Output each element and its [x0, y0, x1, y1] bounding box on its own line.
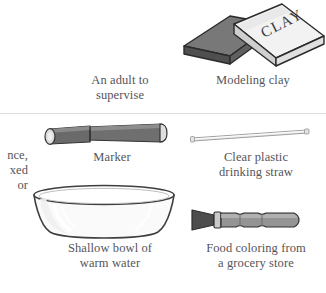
clipped-text-line-2: xed: [0, 163, 28, 178]
caption-drinking-straw: Clear plastic drinking straw: [188, 150, 324, 180]
marker-icon: [40, 121, 168, 149]
caption-marker: Marker: [62, 150, 162, 165]
materials-illustration-page: CLAY An adult to supervise Modeling clay…: [0, 0, 326, 293]
clipped-text-line-1: nce,: [0, 148, 28, 163]
caption-adult-supervise: An adult to supervise: [62, 73, 178, 103]
section-divider: [0, 113, 326, 114]
clay-box-icon: CLAY: [178, 2, 326, 70]
caption-modeling-clay: Modeling clay: [188, 73, 318, 88]
straw-icon: [190, 128, 310, 144]
bowl-icon: [28, 184, 180, 240]
food-coloring-bottle-icon: [190, 203, 302, 237]
caption-food-coloring: Food coloring from a grocery store: [186, 241, 326, 271]
caption-bowl-warm-water: Shallow bowl of warm water: [44, 241, 176, 271]
clipped-text-line-3: or: [0, 178, 28, 193]
